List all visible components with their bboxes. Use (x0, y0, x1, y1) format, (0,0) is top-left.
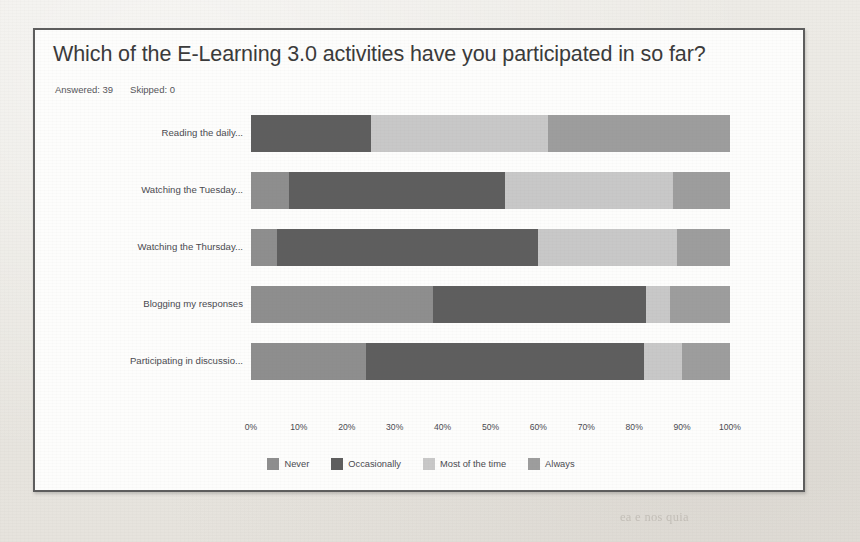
bar-segment[interactable] (366, 343, 644, 380)
skipped-count: Skipped: 0 (130, 84, 175, 95)
bar-segment[interactable] (644, 343, 682, 380)
bar-segment[interactable] (433, 286, 646, 323)
page-title: Which of the E-Learning 3.0 activities h… (53, 42, 706, 67)
bar-segment[interactable] (673, 172, 730, 209)
survey-chart-card: Which of the E-Learning 3.0 activities h… (33, 28, 805, 492)
legend-swatch-icon (423, 458, 435, 470)
bar-category-label: Blogging my responses (125, 298, 243, 310)
bar-segment[interactable] (251, 286, 433, 323)
chart-legend: NeverOccasionallyMost of the timeAlways (35, 458, 807, 470)
bar-segment[interactable] (251, 115, 371, 152)
answered-count: Answered: 39 (55, 84, 113, 95)
bar-segment[interactable] (670, 286, 730, 323)
bar-category-label: Participating in discussio... (125, 355, 243, 367)
bar-track (251, 115, 730, 152)
x-tick-label: 0% (245, 422, 257, 432)
legend-item[interactable]: Most of the time (423, 458, 506, 470)
legend-item[interactable]: Occasionally (331, 458, 401, 470)
bar-row: Blogging my responses (35, 285, 807, 323)
legend-label: Always (545, 459, 574, 469)
bar-segment[interactable] (289, 172, 505, 209)
stacked-bar-plot: Reading the daily...Watching the Tuesday… (35, 112, 807, 412)
response-stats: Answered: 39 Skipped: 0 (55, 84, 175, 95)
bar-segment[interactable] (505, 172, 673, 209)
bar-segment[interactable] (251, 172, 289, 209)
x-tick-label: 60% (530, 422, 547, 432)
bar-segment[interactable] (548, 115, 730, 152)
bar-track (251, 229, 730, 266)
x-tick-label: 50% (482, 422, 499, 432)
bar-track (251, 343, 730, 380)
x-tick-label: 30% (386, 422, 403, 432)
bar-segment[interactable] (646, 286, 670, 323)
bar-row: Watching the Tuesday... (35, 171, 807, 209)
legend-swatch-icon (528, 458, 540, 470)
legend-item[interactable]: Never (267, 458, 309, 470)
bar-row: Participating in discussio... (35, 342, 807, 380)
legend-swatch-icon (331, 458, 343, 470)
legend-label: Occasionally (348, 459, 401, 469)
legend-item[interactable]: Always (528, 458, 574, 470)
legend-label: Never (284, 459, 309, 469)
bar-track (251, 286, 730, 323)
x-tick-label: 90% (673, 422, 690, 432)
x-tick-label: 70% (578, 422, 595, 432)
bar-segment[interactable] (677, 229, 730, 266)
ghost-text-line: ea e nos quia (620, 510, 689, 525)
x-tick-label: 40% (434, 422, 451, 432)
x-tick-label: 100% (719, 422, 741, 432)
x-tick-label: 10% (290, 422, 307, 432)
legend-swatch-icon (267, 458, 279, 470)
bar-segment[interactable] (682, 343, 730, 380)
x-axis-ticks: 0%10%20%30%40%50%60%70%80%90%100% (251, 422, 730, 436)
bar-segment[interactable] (277, 229, 538, 266)
bar-category-label: Watching the Tuesday... (125, 184, 243, 196)
bar-category-label: Watching the Thursday... (125, 241, 243, 253)
bar-segment[interactable] (251, 229, 277, 266)
bar-segment[interactable] (538, 229, 677, 266)
bar-row: Reading the daily... (35, 114, 807, 152)
x-tick-label: 20% (338, 422, 355, 432)
bar-track (251, 172, 730, 209)
bar-segment[interactable] (251, 343, 366, 380)
x-tick-label: 80% (626, 422, 643, 432)
bar-category-label: Reading the daily... (125, 127, 243, 139)
legend-label: Most of the time (440, 459, 506, 469)
bar-row: Watching the Thursday... (35, 228, 807, 266)
bar-segment[interactable] (371, 115, 548, 152)
